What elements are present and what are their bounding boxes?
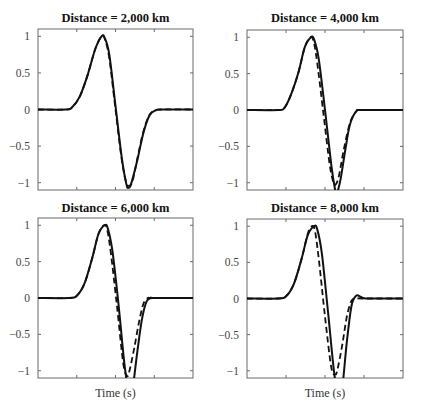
y-tick-label: −0.5: [218, 140, 239, 152]
model-waveform-line: [247, 226, 403, 375]
panel-6000km: Distance = 6,000 km −1−0.500.51 Time (s): [9, 201, 193, 400]
y-tick-label: 1: [233, 220, 239, 232]
panel-title: Distance = 2,000 km: [62, 11, 170, 25]
y-tick-label: −0.5: [9, 140, 30, 152]
y-tick-label: −1: [227, 177, 239, 189]
panel-8000km: Distance = 8,000 km −1−0.500.51 Time (s): [218, 201, 403, 400]
y-tick-label: 1: [233, 31, 239, 43]
y-tick-label: 0: [233, 104, 239, 116]
panel-title: Distance = 8,000 km: [271, 201, 379, 215]
figure: Distance = 2,000 km −1−0.500.51 Distance…: [0, 0, 426, 414]
model-waveform-line: [38, 225, 193, 376]
y-tick-label: 0.5: [16, 256, 31, 268]
x-axis-label: Time (s): [305, 386, 346, 400]
observed-waveform-line: [38, 35, 193, 188]
x-axis-label: Time (s): [95, 386, 136, 400]
observed-waveform-line: [38, 225, 193, 395]
y-tick-label: −1: [18, 177, 30, 189]
y-tick-label: 0: [233, 293, 239, 305]
y-tick-label: −1: [18, 365, 30, 377]
y-tick-label: 0: [24, 292, 30, 304]
panel-4000km: Distance = 4,000 km −1−0.500.51: [218, 11, 403, 195]
panel-title: Distance = 6,000 km: [62, 201, 170, 215]
y-tick-label: 0.5: [16, 67, 31, 79]
y-tick-label: 0.5: [225, 68, 240, 80]
y-tick-label: −0.5: [9, 328, 30, 340]
panel-2000km: Distance = 2,000 km −1−0.500.51: [9, 11, 193, 190]
y-tick-label: 0: [24, 104, 30, 116]
y-tick-label: 0.5: [225, 256, 240, 268]
panel-title: Distance = 4,000 km: [271, 11, 379, 25]
y-tick-label: −0.5: [218, 329, 239, 341]
observed-waveform-line: [247, 36, 403, 194]
y-tick-label: 1: [24, 219, 30, 231]
y-tick-label: −1: [227, 365, 239, 377]
y-tick-label: 1: [24, 30, 30, 42]
